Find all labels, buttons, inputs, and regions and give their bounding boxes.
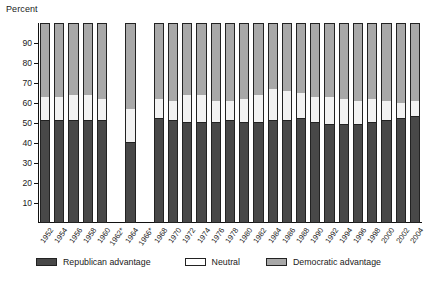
x-axis-tick-label: 1978 (223, 226, 240, 245)
bar-segment-neutral (125, 109, 135, 143)
legend-swatch-republican (36, 258, 57, 266)
bar-segment-neutral (225, 101, 235, 121)
bar-segment-democratic (239, 23, 249, 99)
bar-segment-republican (239, 123, 249, 223)
x-axis-tick-label: 1990 (309, 226, 326, 245)
bar-segment-republican (154, 119, 164, 223)
bar-1998 (367, 23, 377, 223)
legend-item-republican: Republican advantage (36, 257, 151, 267)
bar-segment-neutral (154, 99, 164, 119)
bar-1956 (68, 23, 78, 223)
bar-segment-neutral (396, 103, 406, 119)
x-axis-tick-label: 1988 (294, 226, 311, 245)
x-axis-tick-label: 1996 (351, 226, 368, 245)
bar-segment-democratic (339, 23, 349, 99)
x-axis-tick-label: 1968 (152, 226, 169, 245)
bar-segment-republican (168, 121, 178, 223)
legend-label-neutral: Neutral (212, 257, 240, 267)
bar-segment-democratic (310, 23, 320, 97)
x-axis-tick-label: 2004 (408, 226, 425, 245)
bar-segment-democratic (410, 23, 420, 101)
legend-swatch-neutral (185, 258, 206, 266)
x-axis-tick-label: 1958 (81, 226, 98, 245)
bar-segment-democratic (40, 23, 50, 97)
bar-segment-republican (83, 121, 93, 223)
bar-1954 (54, 23, 64, 223)
bar-segment-neutral (324, 97, 334, 125)
bar-segment-democratic (154, 23, 164, 99)
x-axis-tick-label: 1986 (280, 226, 297, 245)
bar-segment-neutral (168, 101, 178, 121)
bar-segment-neutral (410, 101, 420, 117)
x-axis-tick-label: 1974 (195, 226, 212, 245)
x-axis-tick-label: 2000 (380, 226, 397, 245)
bar-segment-republican (182, 123, 192, 223)
bar-segment-neutral (54, 97, 64, 121)
bar-1966 (140, 23, 150, 223)
bar-segment-democratic (182, 23, 192, 95)
legend-label-republican: Republican advantage (63, 257, 151, 267)
bar-segment-republican (282, 121, 292, 223)
bar-segment-neutral (182, 95, 192, 123)
y-axis-tick-label: 80 (22, 58, 32, 68)
bar-segment-neutral (339, 99, 349, 125)
bar-segment-democratic (353, 23, 363, 101)
bar-1976 (211, 23, 221, 223)
bar-segment-democratic (282, 23, 292, 91)
bar-1988 (296, 23, 306, 223)
x-axis-tick-label: 1984 (266, 226, 283, 245)
bar-segment-republican (125, 143, 135, 223)
bar-segment-republican (54, 121, 64, 223)
bar-segment-republican (339, 125, 349, 223)
bar-1982 (253, 23, 263, 223)
y-axis-tick-label: 50 (22, 118, 32, 128)
bar-segment-republican (310, 123, 320, 223)
y-axis-tick-label: 30 (22, 158, 32, 168)
bar-segment-neutral (353, 101, 363, 125)
x-axis-tick-label: 1972 (181, 226, 198, 245)
bar-segment-republican (196, 123, 206, 223)
bar-segment-democratic (381, 23, 391, 101)
bar-2004 (410, 23, 420, 223)
bar-segment-neutral (296, 93, 306, 119)
bar-segment-democratic (324, 23, 334, 97)
bar-segment-republican (211, 123, 221, 223)
x-axis-tick-label: 1992 (323, 226, 340, 245)
x-axis-tick-label: 1998 (366, 226, 383, 245)
bar-segment-republican (353, 125, 363, 223)
bar-segment-democratic (253, 23, 263, 95)
bar-segment-democratic (54, 23, 64, 97)
bar-1984 (268, 23, 278, 223)
bar-1978 (225, 23, 235, 223)
bar-1986 (282, 23, 292, 223)
bar-2002 (396, 23, 406, 223)
bar-segment-republican (296, 119, 306, 223)
x-axis-tick-label: 1966* (136, 226, 155, 247)
bar-1952 (40, 23, 50, 223)
bar-segment-neutral (211, 101, 221, 123)
y-axis-labels: 102030405060708090 (0, 0, 36, 282)
bar-1974 (196, 23, 206, 223)
bar-segment-republican (396, 119, 406, 223)
bar-segment-neutral (310, 97, 320, 123)
bar-segment-neutral (381, 101, 391, 121)
bar-segment-neutral (268, 89, 278, 121)
bar-segment-democratic (97, 23, 107, 99)
y-axis-tick-label: 70 (22, 78, 32, 88)
legend-item-neutral: Neutral (185, 257, 240, 267)
bar-1968 (154, 23, 164, 223)
bar-segment-neutral (253, 95, 263, 123)
y-axis-tick-label: 20 (22, 178, 32, 188)
bar-1972 (182, 23, 192, 223)
bar-segment-democratic (296, 23, 306, 93)
chart-container: Percent 102030405060708090 1952195419561… (0, 0, 426, 282)
x-axis-tick-label: 1956 (67, 226, 84, 245)
bar-segment-neutral (97, 99, 107, 121)
chart-legend: Republican advantage Neutral Democratic … (36, 257, 381, 267)
x-axis-tick-label: 1994 (337, 226, 354, 245)
bar-1980 (239, 23, 249, 223)
bar-segment-republican (410, 117, 420, 223)
bar-segment-neutral (83, 95, 93, 121)
bar-segment-neutral (367, 99, 377, 123)
bar-segment-democratic (396, 23, 406, 103)
